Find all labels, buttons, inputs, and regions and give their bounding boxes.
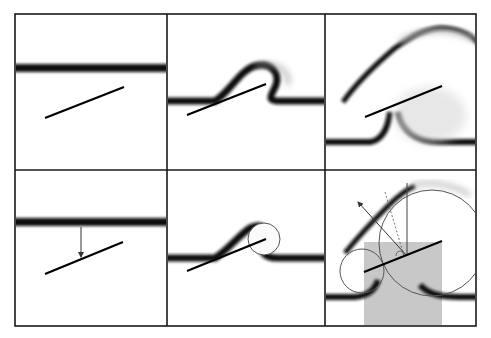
wave-band bbox=[160, 65, 330, 101]
wave-band bbox=[10, 64, 180, 72]
wave-band bbox=[10, 218, 180, 226]
panel-6 bbox=[320, 183, 485, 326]
trough-left bbox=[320, 112, 390, 142]
panel-4 bbox=[10, 218, 180, 274]
wave-band bbox=[160, 226, 330, 258]
inclined-plate bbox=[45, 87, 124, 118]
panel-1 bbox=[10, 64, 180, 118]
panel-5 bbox=[160, 223, 330, 271]
wave-arch-fade bbox=[412, 183, 470, 195]
panel-3 bbox=[320, 28, 480, 143]
inclined-plate bbox=[45, 242, 123, 274]
panel-2 bbox=[160, 64, 330, 115]
diagram-figure bbox=[0, 0, 491, 338]
shaded-wake bbox=[394, 87, 466, 143]
wave-arch bbox=[343, 28, 480, 102]
